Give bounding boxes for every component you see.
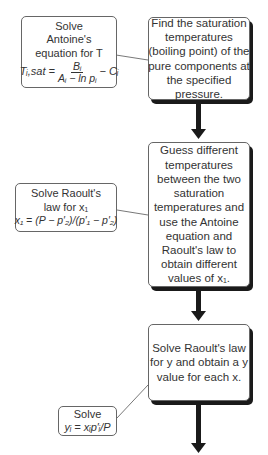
step-text-line: use the Antoine: [159, 215, 238, 229]
connector-line-1: [116, 55, 148, 60]
step-solve-raoult-y: Solve Raoult's law for y and obtain a y …: [148, 324, 250, 401]
side-note-line: law for x₁: [44, 201, 89, 215]
step-text-line: Raoult's law to: [162, 243, 236, 257]
step-text-line: saturation: [174, 186, 225, 200]
side-note-antoine: Solve Antoine's equation for T Tᵢ,sat = …: [21, 16, 117, 88]
step-text-line: temperatures and: [154, 200, 244, 214]
step-find-saturation-temps: Find the saturation temperatures (boilin…: [148, 17, 250, 100]
step-text-line: Guess different: [160, 143, 238, 157]
arrow-down-icon-1: [191, 104, 206, 139]
arrow-down-icon-3: [191, 405, 206, 453]
y-equation: yᵢ = xᵢp′ᵢ/P: [64, 421, 110, 435]
raoult-x-equation: x₁ = (P − p′₂)/(p′₁ − p′₂): [15, 214, 118, 228]
step-text-line: temperatures: [165, 30, 233, 44]
connector-line-2: [117, 210, 148, 215]
connector-line-3: [117, 385, 148, 418]
step-text-line: temperatures: [165, 158, 233, 172]
antoine-equation: Tᵢ,sat = BᵢAᵢ − ln pᵢ − Cᵢ: [20, 61, 119, 84]
step-text-line: (boiling point) of the: [149, 44, 250, 58]
arrow-down-icon-2: [191, 291, 206, 321]
step-text-line: value for each x.: [157, 370, 241, 384]
side-note-line: Solve: [74, 408, 102, 422]
step-guess-temperatures: Guess different temperatures between the…: [148, 142, 250, 287]
step-text-line: equation and: [166, 229, 233, 243]
side-note-line: Solve: [55, 20, 83, 34]
side-note-line: Solve Raoult's: [31, 187, 101, 201]
step-text-line: values of x₁.: [168, 271, 230, 285]
step-text-line: Find the saturation: [151, 16, 246, 30]
step-text-line: pure components at: [148, 59, 250, 73]
step-text-line: pressure.: [175, 87, 223, 101]
side-note-solve-y: Solve yᵢ = xᵢp′ᵢ/P: [58, 406, 117, 436]
side-note-line: equation for T: [35, 47, 103, 61]
step-text-line: obtain different: [161, 257, 237, 271]
side-note-raoult-x: Solve Raoult's law for x₁ x₁ = (P − p′₂)…: [15, 183, 117, 232]
step-text-line: Solve Raoult's law: [152, 341, 246, 355]
step-text-line: between the two: [157, 172, 241, 186]
side-note-line: Antoine's: [47, 33, 92, 47]
step-text-line: for y and obtain a y: [150, 355, 248, 369]
step-text-line: the specified: [167, 73, 232, 87]
